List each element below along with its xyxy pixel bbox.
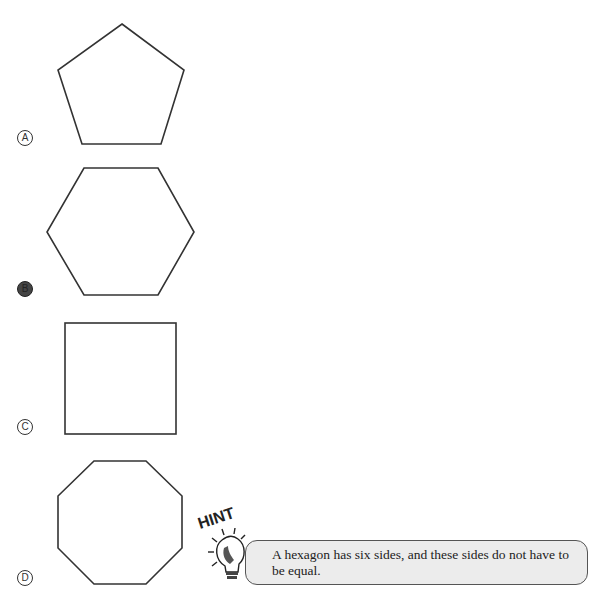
square-shape[interactable] (65, 323, 176, 434)
answer-shapes: HINT (0, 0, 601, 601)
hint-title: HINT (196, 504, 237, 532)
lightbulb-icon (208, 528, 245, 579)
choice-d-bubble[interactable]: D (17, 570, 33, 586)
hexagon-shape[interactable] (47, 168, 194, 295)
choice-b-bubble[interactable]: B (17, 281, 33, 297)
pentagon-shape[interactable] (58, 24, 184, 144)
hint-box: A hexagon has six sides, and these sides… (245, 540, 588, 585)
hint-text: A hexagon has six sides, and these sides… (272, 547, 569, 578)
choice-a-bubble[interactable]: A (17, 130, 33, 146)
choice-c-bubble[interactable]: C (17, 419, 33, 435)
octagon-shape[interactable] (58, 461, 182, 584)
